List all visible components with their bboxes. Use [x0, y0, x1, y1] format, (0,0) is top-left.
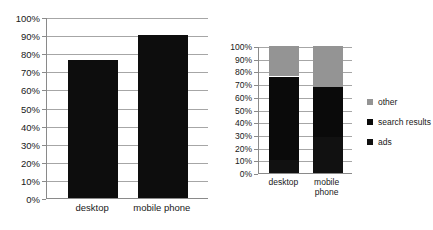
legend-item-other: other	[367, 92, 433, 112]
left-y-tick-label: 80%	[0, 49, 40, 60]
plot-area-right	[258, 47, 352, 174]
right-x-axis-label: mobile phone	[299, 178, 355, 198]
stacked-bar-chart-right: 0%10%20%30%40%50%60%70%80%90%100% deskto…	[222, 0, 433, 230]
right-y-tick-label: 40%	[222, 118, 252, 128]
bar-desktop	[68, 60, 118, 198]
right-y-tick-label: 0%	[222, 169, 252, 179]
left-x-axis-label: mobile phone	[117, 203, 207, 214]
segment-ads	[269, 160, 299, 173]
legend-label: ads	[378, 137, 392, 147]
left-y-tick-label: 20%	[0, 157, 40, 168]
segment-ads	[313, 137, 343, 173]
left-gridline	[47, 18, 208, 19]
legend-swatch-icon	[367, 139, 373, 145]
legend-swatch-icon	[367, 119, 373, 125]
right-y-tick-label: 30%	[222, 131, 252, 141]
segment-search-results	[313, 87, 343, 138]
left-y-tick-label: 0%	[0, 194, 40, 205]
right-y-tick-label: 80%	[222, 67, 252, 77]
left-y-tick-label: 30%	[0, 139, 40, 150]
segment-search-results	[269, 77, 299, 161]
legend-label: other	[378, 97, 397, 107]
right-y-axis-tick	[254, 174, 258, 175]
segment-other	[313, 46, 343, 87]
bar-mobile-phone	[138, 35, 188, 198]
stacked-bar-mobile-phone	[313, 46, 343, 173]
right-y-tick-label: 10%	[222, 156, 252, 166]
left-y-axis-tick	[42, 199, 46, 200]
left-y-tick-label: 70%	[0, 67, 40, 78]
left-y-tick-label: 60%	[0, 85, 40, 96]
right-y-tick-label: 100%	[222, 42, 252, 52]
bar-chart-left: 0%10%20%30%40%50%60%70%80%90%100% deskto…	[0, 0, 222, 230]
two-chart-figure: 0%10%20%30%40%50%60%70%80%90%100% deskto…	[0, 0, 433, 230]
left-y-tick-label: 50%	[0, 103, 40, 114]
segment-other	[269, 46, 299, 76]
legend-swatch-icon	[367, 99, 373, 105]
stacked-bar-desktop	[269, 46, 299, 173]
right-y-tick-label: 20%	[222, 144, 252, 154]
right-y-tick-label: 90%	[222, 55, 252, 65]
chart-legend: othersearch resultsads	[367, 92, 433, 152]
right-y-tick-label: 60%	[222, 93, 252, 103]
legend-item-search-results: search results	[367, 112, 433, 132]
right-y-tick-label: 50%	[222, 106, 252, 116]
left-y-tick-label: 40%	[0, 121, 40, 132]
left-y-tick-label: 10%	[0, 175, 40, 186]
legend-item-ads: ads	[367, 132, 433, 152]
plot-area-left	[46, 18, 208, 199]
right-y-tick-label: 70%	[222, 80, 252, 90]
left-y-tick-label: 100%	[0, 13, 40, 24]
left-y-tick-label: 90%	[0, 31, 40, 42]
legend-label: search results	[378, 117, 431, 127]
